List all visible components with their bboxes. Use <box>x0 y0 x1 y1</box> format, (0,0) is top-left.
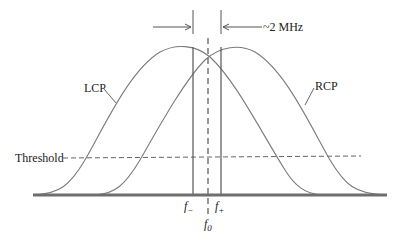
separation-indicator: ~2 MHz <box>153 10 303 34</box>
lcp-leader-line <box>104 89 116 103</box>
threshold-line <box>63 156 361 158</box>
threshold-line-group: Threshold <box>15 151 361 165</box>
rcp-label: RCP <box>315 79 338 93</box>
separation-label: ~2 MHz <box>263 20 303 34</box>
circular-polarization-diagram: ~2 MHz Threshold LCP RCP f− f+ f0 <box>0 0 402 242</box>
f-minus-label: f− <box>184 199 193 215</box>
lcp-curve <box>33 47 322 195</box>
f-zero-label: f0 <box>204 217 212 233</box>
lcp-label: LCP <box>84 81 106 95</box>
rcp-leader-line <box>305 88 314 105</box>
rcp-curve <box>95 47 386 195</box>
threshold-label: Threshold <box>15 151 64 165</box>
f-plus-label: f+ <box>215 199 224 215</box>
